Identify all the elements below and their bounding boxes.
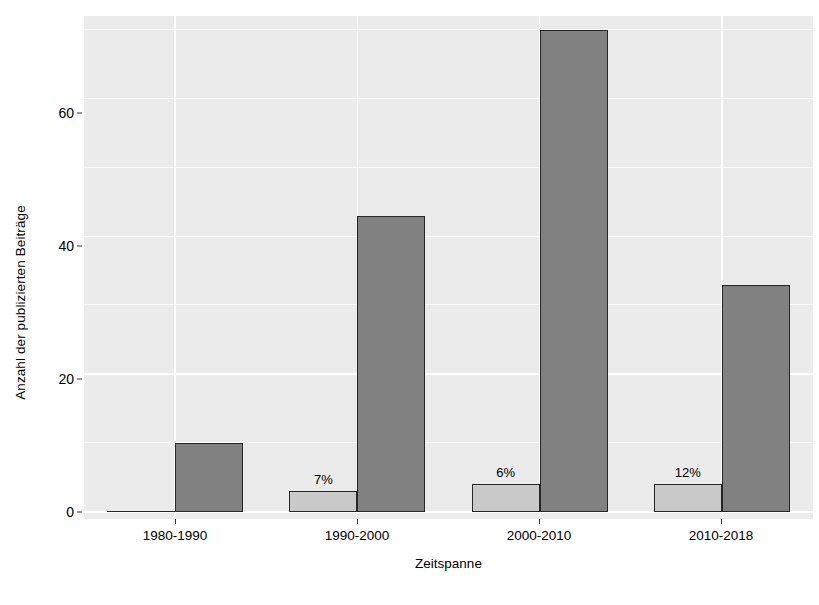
- grid-line-minor-70: [84, 29, 813, 30]
- bar-light-2000-2010: [472, 484, 540, 512]
- y-tick-label-0: 0: [66, 504, 74, 520]
- grid-line-minor-50: [84, 167, 813, 168]
- x-axis-ticks: 1980-1990 1990-2000 2000-2010 2010-2018: [84, 519, 813, 559]
- x-tick-label-3: 2010-2018: [689, 528, 754, 543]
- y-tick-mark-20: [77, 379, 82, 380]
- x-tick-mark-2: [539, 519, 540, 524]
- y-tick-mark-60: [77, 113, 82, 114]
- grid-line-major-60: [84, 98, 813, 100]
- x-tick-mark-0: [175, 519, 176, 524]
- grid-line-major-20: [84, 373, 813, 375]
- y-tick-mark-40: [77, 246, 82, 247]
- y-tick-label-60: 60: [58, 105, 74, 121]
- grid-line-major-40: [84, 236, 813, 238]
- bar-value-label-2000-2010: 6%: [496, 465, 515, 480]
- bar-value-label-1990-2000: 7%: [314, 472, 333, 487]
- x-tick-label-0: 1980-1990: [143, 528, 208, 543]
- bar-light-1980-1990: [107, 511, 175, 512]
- x-tick-mark-3: [721, 519, 722, 524]
- y-axis-title: Anzahl der publizierten Beiträge: [0, 0, 40, 605]
- bar-dark-2010-2018: [722, 285, 790, 512]
- bar-light-1990-2000: [289, 491, 357, 512]
- y-tick-label-20: 20: [58, 371, 74, 387]
- y-tick-label-40: 40: [58, 238, 74, 254]
- x-tick-mark-1: [357, 519, 358, 524]
- x-axis-title: Zeitspanne: [84, 556, 813, 571]
- bar-light-2010-2018: [654, 484, 722, 512]
- x-tick-label-2: 2000-2010: [507, 528, 572, 543]
- bar-dark-2000-2010: [540, 30, 608, 512]
- y-tick-mark-0: [77, 512, 82, 513]
- bar-dark-1980-1990: [175, 443, 243, 512]
- bar-dark-1990-2000: [357, 216, 425, 512]
- x-tick-label-1: 1990-2000: [325, 528, 390, 543]
- y-axis-ticks: 0 20 40 60: [40, 0, 82, 605]
- grid-line-minor-30: [84, 304, 813, 305]
- bar-value-label-2010-2018: 12%: [675, 465, 701, 480]
- plot-panel: 7%6%12%: [84, 16, 813, 519]
- bar-chart: Anzahl der publizierten Beiträge 0 20 40…: [0, 0, 819, 605]
